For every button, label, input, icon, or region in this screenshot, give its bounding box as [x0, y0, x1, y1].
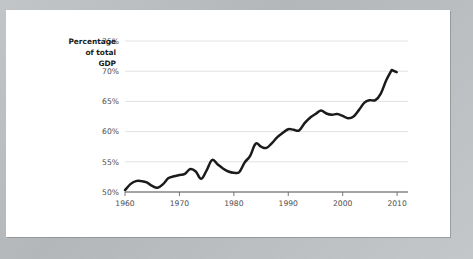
- x-tick-label: 2010: [387, 199, 406, 208]
- x-tick-label: 2000: [333, 199, 352, 208]
- y-tick-label: 50%: [102, 188, 119, 197]
- chart-svg: 50%55%60%65%70%75% 196019701980199020002…: [6, 10, 450, 237]
- x-tick-label: 1980: [224, 199, 243, 208]
- y-axis-title-line-1: Percentage: [68, 37, 116, 46]
- y-tick-label: 65%: [102, 97, 119, 106]
- chart-card: 50%55%60%65%70%75% 196019701980199020002…: [6, 10, 450, 237]
- x-tick-marks-group: [125, 192, 397, 196]
- line-chart: 50%55%60%65%70%75% 196019701980199020002…: [6, 10, 450, 237]
- y-axis-title-line-2: of total: [85, 48, 116, 57]
- y-tick-label: 70%: [102, 67, 119, 76]
- y-tick-label: 60%: [102, 127, 119, 136]
- y-tick-label: 55%: [102, 158, 119, 167]
- data-series-line: [125, 70, 397, 190]
- x-tick-label: 1990: [279, 199, 298, 208]
- x-tick-label: 1970: [170, 199, 189, 208]
- x-tick-labels-group: 196019701980199020002010: [115, 199, 407, 208]
- x-tick-label: 1960: [115, 199, 134, 208]
- y-axis-title-line-3: GDP: [98, 59, 116, 68]
- screenshot-root: 50%55%60%65%70%75% 196019701980199020002…: [0, 0, 473, 259]
